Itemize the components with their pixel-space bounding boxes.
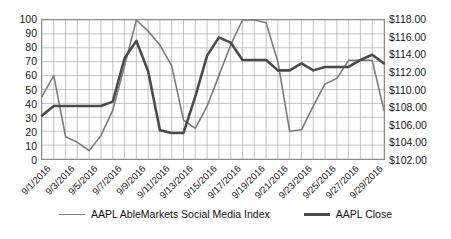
y-tick-right: $114.00 bbox=[389, 48, 426, 60]
y-tick-right: $110.00 bbox=[389, 84, 426, 96]
chart-legend: AAPL AbleMarkets Social Media Index AAPL… bbox=[0, 208, 451, 220]
series-line-0 bbox=[42, 20, 384, 151]
series-line-1 bbox=[42, 37, 384, 133]
legend-swatch-index-icon bbox=[59, 214, 85, 215]
y-tick-right: $108.00 bbox=[389, 101, 427, 113]
y-tick-left: 30 bbox=[25, 112, 37, 124]
y-tick-left: 20 bbox=[25, 126, 37, 138]
y-tick-left: 70 bbox=[25, 55, 37, 67]
series-lines bbox=[42, 20, 384, 159]
plot-area bbox=[41, 19, 385, 160]
y-tick-right: $102.00 bbox=[389, 154, 427, 166]
y-tick-right: $106.00 bbox=[389, 119, 427, 131]
y-tick-left: 60 bbox=[25, 69, 37, 81]
legend-item-index: AAPL AbleMarkets Social Media Index bbox=[59, 208, 270, 220]
y-tick-left: 90 bbox=[25, 27, 37, 39]
y-tick-left: 40 bbox=[25, 98, 37, 110]
y-tick-right: $118.00 bbox=[389, 13, 426, 25]
legend-label-close: AAPL Close bbox=[336, 208, 392, 220]
y-tick-left: 10 bbox=[25, 140, 37, 152]
legend-item-close: AAPL Close bbox=[304, 208, 392, 220]
y-tick-left: 0 bbox=[31, 154, 37, 166]
y-tick-left: 80 bbox=[25, 41, 37, 53]
y-tick-left: 50 bbox=[25, 84, 37, 96]
legend-label-index: AAPL AbleMarkets Social Media Index bbox=[91, 208, 270, 220]
y-tick-right: $112.00 bbox=[389, 66, 426, 78]
y-tick-right: $116.00 bbox=[389, 31, 426, 43]
y-tick-right: $104.00 bbox=[389, 136, 427, 148]
chart-container: AAPL AbleMarkets Social Media Index AAPL… bbox=[0, 0, 451, 239]
y-tick-left: 100 bbox=[19, 13, 37, 25]
legend-swatch-close-icon bbox=[304, 213, 330, 216]
